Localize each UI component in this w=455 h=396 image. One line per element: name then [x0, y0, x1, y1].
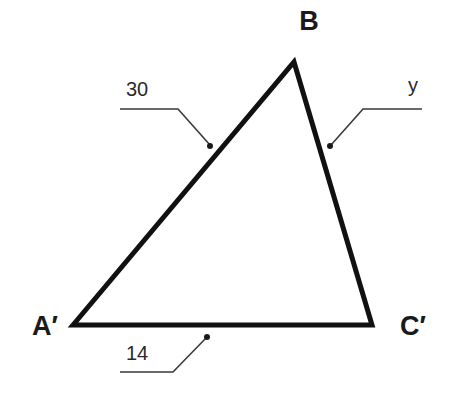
side-ac-callout: 14 [120, 334, 210, 372]
side-ab-callout: 30 [120, 78, 213, 149]
leader-line-ab [120, 109, 210, 145]
vertex-label-c: C′ [400, 311, 426, 341]
side-label-ac: 14 [126, 342, 148, 364]
side-label-ab: 30 [126, 78, 148, 100]
side-bc-callout: y [327, 74, 422, 149]
leader-line-bc [331, 109, 422, 145]
side-label-bc: y [408, 74, 418, 96]
leader-dot-bc [327, 143, 333, 149]
triangle-abc [73, 62, 372, 325]
vertex-label-b: B [299, 6, 319, 36]
leader-dot-ab [207, 143, 213, 149]
triangle-diagram: B A′ C′ 30 y 14 [0, 0, 455, 396]
leader-dot-ac [204, 334, 210, 340]
vertex-label-a: A′ [32, 311, 58, 341]
